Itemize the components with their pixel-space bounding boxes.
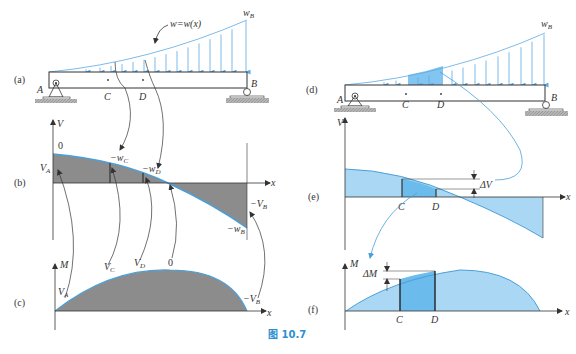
load-arrows — [86, 21, 246, 72]
moment-area — [55, 270, 247, 311]
zero-label-b: 0 — [58, 140, 63, 151]
panel-label-a: (a) — [14, 74, 25, 86]
deltaV-label: ΔV — [479, 179, 494, 190]
load-curve-d — [345, 33, 545, 85]
zero-label-c: 0 — [168, 257, 173, 268]
point-C-label-f: C — [396, 314, 403, 325]
axis-x-label-c: x — [266, 307, 272, 318]
axis-M-label-f: M — [349, 258, 359, 269]
axis-V-label: V — [57, 118, 65, 129]
panel-label-e: (e) — [308, 191, 319, 203]
axis-x-label-f: x — [564, 306, 570, 317]
point-A-label: A — [36, 84, 44, 95]
roller-support-B — [226, 89, 269, 104]
panel-a-loaded-beam: (a) wB w=w(x) — [14, 7, 269, 103]
load-label-pointer — [155, 25, 168, 43]
point-D-label-e: D — [431, 201, 440, 212]
beam-d — [345, 85, 545, 101]
panel-d-loaded-beam: (d) wB A — [306, 18, 568, 116]
panel-f-moment-diagram: (f) ΔM M x C D — [308, 258, 570, 330]
shear-area-negative — [168, 183, 247, 228]
panel-label-c: (c) — [14, 297, 25, 309]
panel-c-moment-diagram: (c) M x VA VC VD 0 −VB — [14, 257, 272, 330]
axis-x-label-e: x — [565, 191, 571, 202]
point-C-dot-d — [405, 93, 407, 95]
VB-label-b: −VB — [250, 198, 268, 211]
axis-V-label-e: V — [337, 117, 345, 128]
axis-M-label-c: M — [59, 259, 69, 270]
load-curve — [49, 20, 247, 72]
VA-label-c: VA — [58, 286, 69, 299]
point-B-label-d: B — [551, 92, 557, 103]
roller-support-B-d — [525, 102, 568, 117]
point-D-label: D — [138, 91, 147, 102]
point-C-label: C — [104, 91, 111, 102]
point-C-label-d: C — [402, 99, 409, 110]
deltaM-label: ΔM — [362, 268, 378, 279]
load-segment-CD — [408, 66, 443, 85]
panel-b-shear-diagram: (b) V x 0 VA −wC −wD −VB −wB — [14, 118, 276, 240]
panel-e-shear-diagram: (e) ΔV V x C D — [308, 117, 571, 250]
axis-x-label-b: x — [270, 177, 276, 188]
wB-label: wB — [243, 7, 255, 20]
panel-label-d: (d) — [306, 84, 318, 96]
load-function-label: w=w(x) — [170, 18, 202, 30]
VA-label-b: VA — [40, 162, 51, 175]
moment-segment-CD-f — [400, 271, 435, 311]
VC-label-c: VC — [104, 261, 115, 274]
point-C-dot — [107, 79, 109, 81]
panel-label-b: (b) — [14, 177, 26, 189]
connector-e-to-f — [370, 193, 417, 258]
point-B-label: B — [251, 78, 257, 89]
VB-label-c: −VB — [243, 293, 261, 306]
point-D-label-f: D — [430, 314, 439, 325]
beam-shear-moment-figure: (a) wB w=w(x) — [0, 0, 576, 354]
point-D-dot — [142, 79, 144, 81]
panel-label-f: (f) — [308, 304, 318, 316]
wB-label-d: wB — [541, 18, 553, 31]
point-D-dot-d — [440, 93, 442, 95]
shear-area-e-negative — [460, 197, 543, 238]
point-D-label-d: D — [436, 99, 445, 110]
beam — [49, 72, 247, 88]
figure-caption: 图 10.7 — [268, 329, 306, 340]
VD-label-c: VD — [134, 257, 145, 270]
point-A-label-d: A — [336, 94, 344, 105]
